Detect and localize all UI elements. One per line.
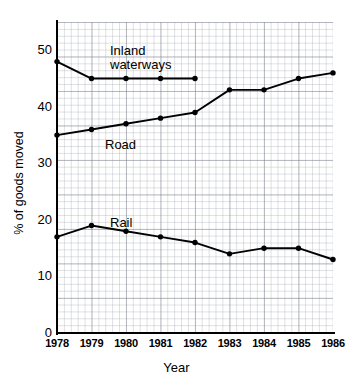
data-point-marker (261, 87, 266, 92)
data-point-marker (158, 234, 163, 239)
data-point-marker (123, 76, 128, 81)
data-point-marker (158, 115, 163, 120)
data-point-marker (261, 245, 266, 250)
data-point-marker (192, 110, 197, 115)
series-label-road: Road (105, 138, 136, 152)
data-point-marker (54, 234, 59, 239)
series-rail (54, 223, 335, 262)
series-line (57, 73, 333, 135)
data-point-marker (296, 76, 301, 81)
series-label-waterways: waterways (110, 58, 171, 72)
data-point-marker (227, 251, 232, 256)
data-point-marker (54, 132, 59, 137)
series-label-inland: Inland (110, 44, 145, 58)
data-point-marker (123, 121, 128, 126)
data-point-marker (192, 76, 197, 81)
data-point-marker (192, 240, 197, 245)
data-point-marker (89, 127, 94, 132)
data-point-marker (330, 70, 335, 75)
data-point-marker (54, 59, 59, 64)
line-chart-figure: 01020304050 1978197919801981198219831984… (0, 0, 353, 389)
data-point-marker (89, 76, 94, 81)
series-label-rail: Rail (110, 216, 132, 230)
data-point-marker (296, 245, 301, 250)
series-overlay (0, 0, 353, 389)
data-point-marker (330, 257, 335, 262)
data-point-marker (89, 223, 94, 228)
data-point-marker (227, 87, 232, 92)
data-point-marker (158, 76, 163, 81)
